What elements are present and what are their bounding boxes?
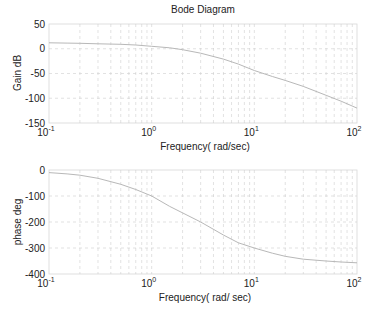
phase-xlabel: Frequency( rad/ sec) xyxy=(159,292,251,303)
x-tick-label: 101 xyxy=(244,276,259,289)
x-tick-label: 100 xyxy=(141,125,156,138)
bode-plots: Bode Diagram 500-50-100-15010-1100101102… xyxy=(0,0,374,319)
y-tick-label: 0 xyxy=(39,165,45,176)
gain-xlabel: Frequency( rad/sec) xyxy=(160,141,249,152)
y-tick-label: 0 xyxy=(39,43,45,54)
gain-ylabel: Gain dB xyxy=(12,55,23,91)
plot-area xyxy=(49,170,357,274)
y-tick-label: 50 xyxy=(34,19,46,30)
x-tick-label: 102 xyxy=(346,276,361,289)
y-tick-label: -100 xyxy=(25,93,45,104)
gain-axes: 500-50-100-15010-1100101102 xyxy=(25,19,362,139)
x-tick-label: 100 xyxy=(141,276,156,289)
y-tick-label: -100 xyxy=(25,191,45,202)
x-tick-label: 101 xyxy=(244,125,259,138)
y-tick-label: -300 xyxy=(25,243,45,254)
x-tick-label: 10-1 xyxy=(37,125,54,138)
phase-axes: 0-100-200-300-40010-1100101102 xyxy=(25,165,362,290)
y-tick-label: -200 xyxy=(25,217,45,228)
bode-figure: Bode Diagram 500-50-100-15010-1100101102… xyxy=(0,0,374,319)
plot-area xyxy=(49,24,357,123)
phase-ylabel: phase deg xyxy=(12,199,23,246)
y-tick-label: -50 xyxy=(31,68,46,79)
chart-title: Bode Diagram xyxy=(171,4,235,15)
x-tick-label: 10-1 xyxy=(37,276,54,289)
x-tick-label: 102 xyxy=(346,125,361,138)
